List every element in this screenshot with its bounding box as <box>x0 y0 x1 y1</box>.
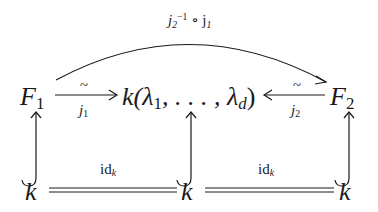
hook-arrow-right <box>335 112 354 186</box>
label-id-right: idk <box>258 162 274 178</box>
curved-arrow-top <box>56 44 326 82</box>
node-F2: F2 <box>330 84 354 113</box>
hook-arrow-middle <box>177 112 196 186</box>
label-tilde-j2: ~ <box>293 78 301 93</box>
hook-arrow-left <box>22 112 41 186</box>
node-k-right: k <box>339 179 351 205</box>
label-composite: j2−1 ∘ j1 <box>168 12 211 30</box>
double-line-left <box>49 188 177 192</box>
double-line-right <box>205 188 334 192</box>
label-j2: j2 <box>291 103 300 119</box>
label-tilde-j1: ~ <box>80 78 88 93</box>
node-k-left: k <box>25 179 37 205</box>
node-k-lambda: k(λ1, . . . , λd) <box>122 84 255 113</box>
label-id-left: idk <box>100 162 116 178</box>
node-F1: F1 <box>20 84 44 113</box>
label-j1: j1 <box>79 103 88 119</box>
node-k-middle: k <box>181 179 193 205</box>
